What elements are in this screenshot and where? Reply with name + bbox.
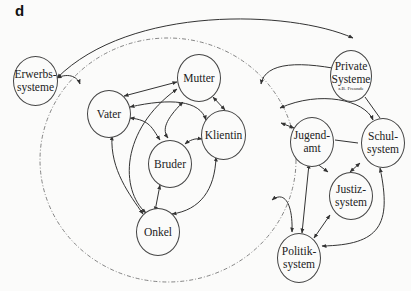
node-vater: Vater [87,90,131,138]
node-label: Bruder [154,158,186,171]
node-label: Erwerbs- [14,68,56,81]
node-private-systeme: Private Systeme z.B. Freunde [330,50,372,102]
node-erwerbssysteme: Erwerbs- systeme [13,56,58,106]
node-bruder: Bruder [148,140,192,188]
node-label: system [335,196,367,209]
node-label: amt [303,142,320,155]
node-label: Mutter [183,72,214,85]
node-schulsystem: Schul- system [361,118,405,168]
node-label: Vater [97,108,121,121]
node-label: system [367,143,399,156]
node-onkel: Onkel [136,208,180,256]
node-label: Jugend- [294,129,330,142]
node-label: Schul- [368,130,398,143]
node-note: z.B. Freunde [338,86,364,92]
node-mutter: Mutter [177,54,221,102]
node-klientin: Klientin [201,110,246,160]
node-label: systeme [17,81,54,94]
node-justizsystem: Justiz- system [329,172,373,220]
node-label: system [283,258,315,271]
node-label: Onkel [144,226,172,239]
node-label: Private [335,60,368,73]
node-jugendamt: Jugend- amt [290,117,334,167]
node-politiksystem: Politik- system [277,233,321,283]
node-label: Justiz- [336,183,366,196]
diagram-canvas: d [0,0,411,291]
node-label: Klientin [205,129,243,142]
node-label: Politik- [282,245,317,258]
node-label: Systeme [332,73,371,86]
